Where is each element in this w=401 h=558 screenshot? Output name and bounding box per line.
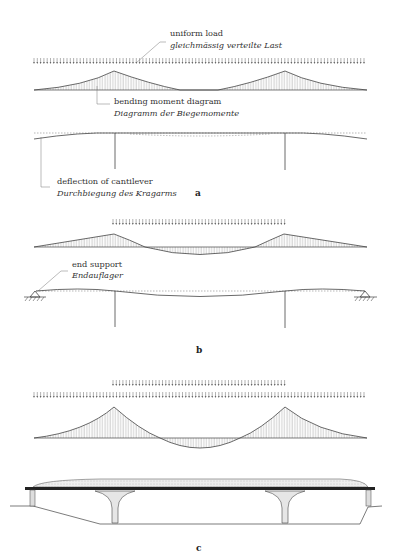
center-span-load-arrows <box>112 219 285 225</box>
end-support-label-de: Endauflager <box>71 270 124 280</box>
abutment-right <box>366 490 371 506</box>
center-span-load-arrows-c <box>112 380 285 386</box>
uniform-load-leader <box>136 42 166 63</box>
beam-deflection-b <box>36 289 365 328</box>
uniform-load-label: uniform load <box>170 28 223 38</box>
uniform-load-arrows <box>33 58 365 64</box>
bending-moment-label-de: Diagramm der Biegemomente <box>113 108 239 118</box>
abutment-left <box>30 490 35 506</box>
ground-line <box>10 506 382 524</box>
panel-b: end support Endauflager <box>24 219 377 355</box>
bending-moment-diagram <box>34 71 367 90</box>
bending-moment-diagram-c <box>34 407 367 448</box>
end-support-left <box>24 291 46 301</box>
panel-a: uniform load gleichmässig verteilte Last… <box>33 28 367 198</box>
beam-deflection-a <box>34 133 367 170</box>
panel-c: c <box>10 380 382 553</box>
pier-left-c <box>95 491 135 523</box>
bending-moment-label: bending moment diagram <box>114 96 222 106</box>
bridge-elevation <box>10 479 382 524</box>
end-support-leader <box>38 271 68 291</box>
uniform-load-label-de: gleichmässig verteilte Last <box>170 40 283 50</box>
cantilever-deflection-label-de: Durchbiegung des Kragarms <box>56 188 177 198</box>
panel-label-a: a <box>195 188 201 198</box>
cantilever-deflection-label: deflection of cantilever <box>57 176 153 186</box>
bending-moment-diagram-b <box>34 234 367 255</box>
panel-label-b: b <box>196 345 202 355</box>
pier-right-c <box>265 491 305 523</box>
bridge-deck-surface <box>33 479 368 487</box>
panel-label-c: c <box>196 543 202 553</box>
end-support-label: end support <box>72 259 123 269</box>
cantilever-leader <box>41 137 50 187</box>
end-support-right <box>354 291 377 301</box>
bridge-deck <box>25 487 375 490</box>
structural-diagram: uniform load gleichmässig verteilte Last… <box>0 0 401 558</box>
uniform-load-arrows-c <box>33 392 365 398</box>
